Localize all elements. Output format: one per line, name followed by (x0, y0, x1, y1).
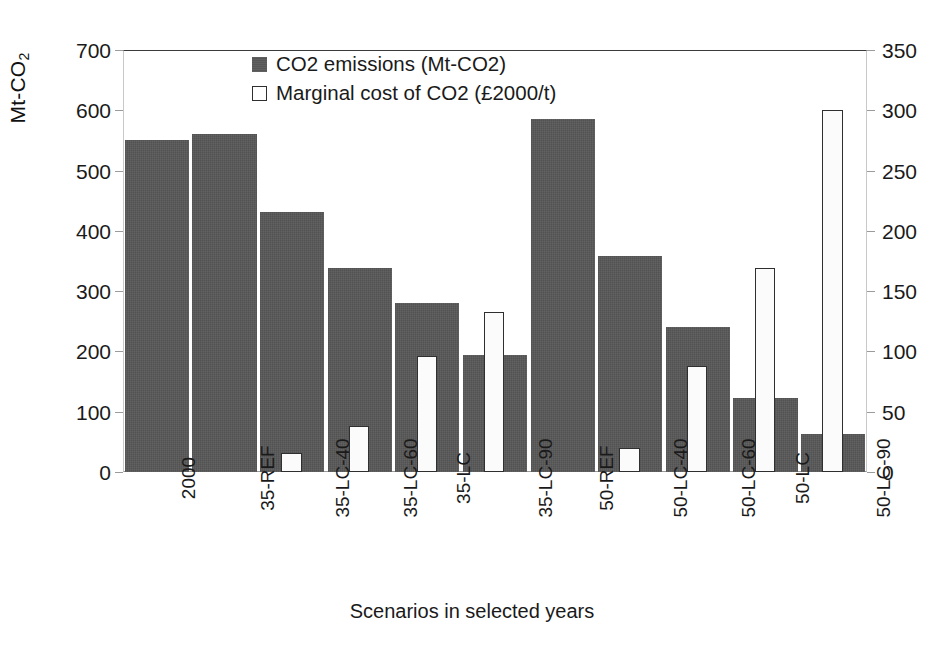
bar-marginal-cost[interactable] (619, 448, 639, 472)
y-axis-left-tick-label: 400 (56, 221, 111, 242)
y-axis-right-tick-mark (867, 412, 875, 413)
bar-group[interactable] (123, 50, 191, 472)
bar-co2-emissions[interactable] (125, 140, 189, 472)
y-axis-left-tick-mark (115, 472, 123, 473)
x-axis-tick-label: 35-LC-90 (535, 438, 557, 517)
bar-co2-emissions[interactable] (531, 119, 595, 472)
bar-marginal-cost[interactable] (484, 312, 504, 472)
x-axis-tick-label: 50-LC-90 (873, 438, 895, 517)
chart-legend: CO2 emissions (Mt-CO2) Marginal cost of … (252, 52, 556, 110)
y-axis-right-tick-mark (867, 50, 875, 51)
x-axis-tick-label: 35-LC-60 (399, 438, 421, 517)
bar-group[interactable] (191, 50, 259, 472)
x-axis-tick-label: 50-LC (791, 452, 813, 504)
y-axis-right-tick-label: 300 (882, 100, 937, 121)
legend-swatch-outline-square (252, 86, 267, 101)
x-axis-tick-label: 35-LC (453, 452, 475, 504)
y-axis-right-tick-label: 150 (882, 281, 937, 302)
y-axis-right-tick-label: 50 (882, 402, 937, 423)
x-axis-tick-label: 2000 (178, 457, 200, 499)
x-axis-tick-label: 50-REF (595, 445, 617, 510)
legend-label-emissions: CO2 emissions (Mt-CO2) (276, 52, 506, 76)
y-axis-left-tick-label: 300 (56, 281, 111, 302)
y-axis-right-tick-mark (867, 351, 875, 352)
bar-group[interactable] (258, 50, 326, 472)
y-axis-right-tick-mark (867, 110, 875, 111)
legend-item-marginal-cost: Marginal cost of CO2 (£2000/t) (252, 81, 556, 105)
y-axis-left-tick-mark (115, 171, 123, 172)
y-axis-left-tick-label: 700 (56, 40, 111, 61)
y-axis-left-tick-label: 500 (56, 161, 111, 182)
y-axis-left-title-subscript: 2 (16, 53, 32, 61)
y-axis-left-title-text: Mt-CO2 (6, 53, 29, 124)
y-axis-left-tick-mark (115, 351, 123, 352)
y-axis-right-tick-label: 100 (882, 341, 937, 362)
x-axis-tick-label: 50-LC-60 (738, 438, 760, 517)
y-axis-right-tick-label: 250 (882, 161, 937, 182)
y-axis-left-tick-mark (115, 412, 123, 413)
y-axis-right-tick-mark (867, 291, 875, 292)
bar-group[interactable] (461, 50, 529, 472)
y-axis-left-tick-label: 0 (56, 462, 111, 483)
bar-group[interactable] (529, 50, 597, 472)
bar-co2-emissions[interactable] (260, 212, 324, 472)
bar-group[interactable] (596, 50, 664, 472)
x-axis-tick-label: 35-LC-40 (332, 438, 354, 517)
legend-swatch-filled-square (252, 57, 267, 72)
bar-group[interactable] (799, 50, 867, 472)
legend-label-marginal-cost: Marginal cost of CO2 (£2000/t) (276, 81, 556, 105)
bar-co2-emissions[interactable] (598, 256, 662, 472)
y-axis-left-tick-mark (115, 50, 123, 51)
bar-marginal-cost[interactable] (281, 453, 301, 472)
legend-item-emissions: CO2 emissions (Mt-CO2) (252, 52, 556, 76)
y-axis-left-title: Mt-CO2 (6, 0, 30, 178)
y-axis-left-tick-label: 200 (56, 341, 111, 362)
y-axis-right-tick-mark (867, 231, 875, 232)
bar-group[interactable] (732, 50, 800, 472)
x-axis-tick-label: 35-REF (257, 445, 279, 510)
y-axis-right-tick-label: 350 (882, 40, 937, 61)
x-axis-tick-label: 50-LC-40 (670, 438, 692, 517)
y-axis-left-tick-label: 600 (56, 100, 111, 121)
bar-group[interactable] (664, 50, 732, 472)
chart-root: Mt-CO2 7006005004003002001000 3503002502… (0, 0, 944, 645)
y-axis-right-tick-mark (867, 171, 875, 172)
y-axis-left-tick-label: 100 (56, 402, 111, 423)
x-axis-title: Scenarios in selected years (0, 600, 944, 623)
y-axis-right-tick-label: 200 (882, 221, 937, 242)
x-axis-tick-labels: 200035-REF35-LC-4035-LC-6035-LC35-LC-905… (123, 478, 867, 590)
y-axis-left-tick-mark (115, 231, 123, 232)
y-axis-left-tick-mark (115, 291, 123, 292)
bar-group[interactable] (394, 50, 462, 472)
bar-marginal-cost[interactable] (822, 110, 842, 472)
bar-series-container (123, 50, 867, 472)
bar-co2-emissions[interactable] (192, 134, 256, 472)
bar-group[interactable] (326, 50, 394, 472)
y-axis-left-tick-mark (115, 110, 123, 111)
